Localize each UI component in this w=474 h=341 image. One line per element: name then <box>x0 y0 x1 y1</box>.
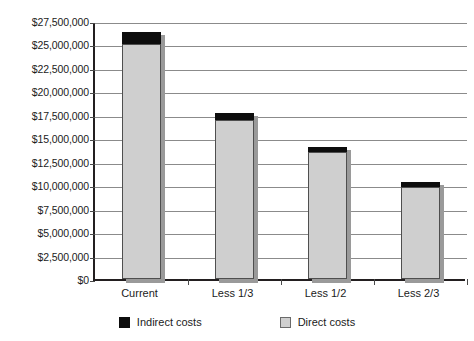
x-axis-category-label-less-1-3: Less 1/3 <box>188 287 278 299</box>
y-axis-tick <box>90 258 95 259</box>
y-axis-tick <box>90 211 95 212</box>
y-axis-tick-label: $22,500,000 <box>7 63 89 75</box>
gridline <box>95 23 467 24</box>
legend-entry-indirect-costs[interactable]: Indirect costs <box>119 316 202 328</box>
y-axis-tick <box>90 70 95 71</box>
y-axis-tick <box>90 281 95 282</box>
legend-label: Indirect costs <box>137 316 202 328</box>
chart-legend: Indirect costsDirect costs <box>0 316 474 328</box>
bar-group[interactable] <box>308 146 347 279</box>
legend-entry-direct-costs[interactable]: Direct costs <box>280 316 355 328</box>
bar-segment-direct-costs[interactable] <box>401 187 440 279</box>
bar-segment-direct-costs[interactable] <box>308 152 347 279</box>
y-axis-tick-label: $27,500,000 <box>7 16 89 28</box>
x-axis-category-label-less-1-2: Less 1/2 <box>281 287 371 299</box>
x-axis-tick <box>188 279 189 285</box>
y-axis-tick <box>90 93 95 94</box>
bar-group[interactable] <box>122 31 161 279</box>
bar-group[interactable] <box>401 181 440 280</box>
y-axis-tick <box>90 140 95 141</box>
y-axis-tick <box>90 46 95 47</box>
bar-stack <box>401 182 440 280</box>
y-axis-tick-label: $17,500,000 <box>7 110 89 122</box>
y-axis-tick-label: $20,000,000 <box>7 86 89 98</box>
y-axis-tick-label: $12,500,000 <box>7 157 89 169</box>
bar-segment-direct-costs[interactable] <box>215 120 254 279</box>
y-axis-tick <box>90 117 95 118</box>
y-axis-tick <box>90 234 95 235</box>
x-axis-tick <box>281 279 282 285</box>
bar-group[interactable] <box>215 112 254 279</box>
bar-segment-direct-costs[interactable] <box>122 44 161 279</box>
indirect-swatch-icon <box>119 317 130 328</box>
y-axis-tick-label: $15,000,000 <box>7 133 89 145</box>
direct-swatch-icon <box>280 317 291 328</box>
x-axis-tick <box>467 279 468 285</box>
bar-stack <box>308 147 347 279</box>
y-axis-tick <box>90 164 95 165</box>
y-axis-tick-label: $0 <box>7 274 89 286</box>
y-axis-tick <box>90 187 95 188</box>
plot-area: $27,500,000$25,000,000$22,500,000$20,000… <box>93 23 465 281</box>
x-axis-tick <box>374 279 375 285</box>
y-axis-tick-label: $25,000,000 <box>7 39 89 51</box>
y-axis-tick <box>90 23 95 24</box>
y-axis-tick-label: $2,500,000 <box>7 251 89 263</box>
x-axis-category-label-less-2-3: Less 2/3 <box>374 287 464 299</box>
cost-comparison-bar-chart: $27,500,000$25,000,000$22,500,000$20,000… <box>0 0 474 341</box>
y-axis-tick-label: $10,000,000 <box>7 180 89 192</box>
bar-stack <box>122 32 161 279</box>
bar-stack <box>215 113 254 279</box>
x-axis-category-label-current: Current <box>95 287 185 299</box>
y-axis-tick-label: $7,500,000 <box>7 204 89 216</box>
y-axis-tick-label: $5,000,000 <box>7 227 89 239</box>
legend-label: Direct costs <box>298 316 355 328</box>
